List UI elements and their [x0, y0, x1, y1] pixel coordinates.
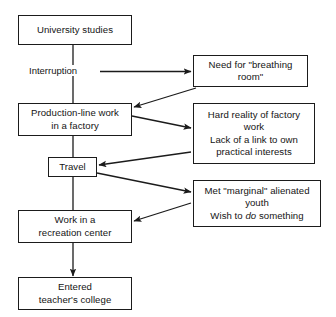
connector-production-to-hard: [132, 116, 191, 128]
edge-label-interruption: Interruption: [27, 65, 79, 76]
node-production-line-work[interactable]: Production-line work in a factory: [18, 103, 132, 136]
node-label: Travel: [49, 161, 96, 173]
connector-breathing-to-production: [134, 88, 196, 107]
diagram-canvas: University studies Need for "breathing r…: [0, 0, 336, 317]
node-need-for-breathing-room[interactable]: Need for "breathing room": [193, 55, 308, 87]
node-university-studies[interactable]: University studies: [18, 15, 132, 45]
node-label: Met "marginal" alienatedyouthWish to do …: [194, 185, 320, 222]
node-label: Entered teacher's college: [19, 281, 131, 305]
node-label: Hard reality of factory work Lack of a l…: [194, 109, 314, 158]
node-met-marginal-alienated-youth[interactable]: Met "marginal" alienatedyouthWish to do …: [193, 180, 321, 227]
node-label-line-2: youth: [245, 197, 269, 208]
edge-label-text: Interruption: [29, 65, 77, 76]
node-label-emphasis: do: [245, 210, 256, 221]
node-label: Work in a recreation center: [19, 214, 131, 238]
node-label-line-3-prefix: Wish to: [210, 210, 245, 221]
node-label-line-3-suffix: something: [256, 210, 303, 221]
node-label: University studies: [19, 24, 131, 36]
connector-travel-to-marginal: [97, 173, 191, 192]
node-label: Need for "breathing room": [194, 59, 307, 83]
connector-hard-to-travel: [99, 152, 191, 165]
node-label-line-1: Met "marginal" alienated: [204, 185, 309, 196]
node-label: Production-line work in a factory: [19, 107, 131, 131]
connector-marginal-to-recreation: [134, 203, 191, 221]
node-entered-teachers-college[interactable]: Entered teacher's college: [18, 277, 132, 310]
node-work-in-recreation-center[interactable]: Work in a recreation center: [18, 210, 132, 243]
node-hard-reality-of-factory-work[interactable]: Hard reality of factory work Lack of a l…: [193, 103, 315, 164]
node-travel[interactable]: Travel: [48, 157, 97, 177]
